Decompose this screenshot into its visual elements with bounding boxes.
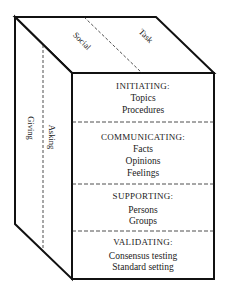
section-item: Opinions <box>126 156 161 166</box>
section-item: Groups <box>129 216 157 226</box>
section-item: Standard setting <box>112 262 174 272</box>
section-item: Facts <box>133 144 153 154</box>
section-heading-validating: VALIDATING: <box>113 237 173 247</box>
section-item: Persons <box>128 205 158 215</box>
section-heading-communicating: COMMUNICATING: <box>101 132 185 142</box>
section-item: Topics <box>130 93 155 103</box>
label-giving: Giving <box>26 116 36 140</box>
section-item: Consensus testing <box>109 251 178 261</box>
section-heading-initiating: INITIATING: <box>116 81 170 91</box>
section-item: Procedures <box>122 105 165 115</box>
section-item: Feelings <box>127 168 159 178</box>
box-diagram: Social Task Giving Asking INITIATING: To… <box>0 0 227 297</box>
section-heading-supporting: SUPPORTING: <box>113 191 174 201</box>
label-asking: Asking <box>47 125 57 150</box>
